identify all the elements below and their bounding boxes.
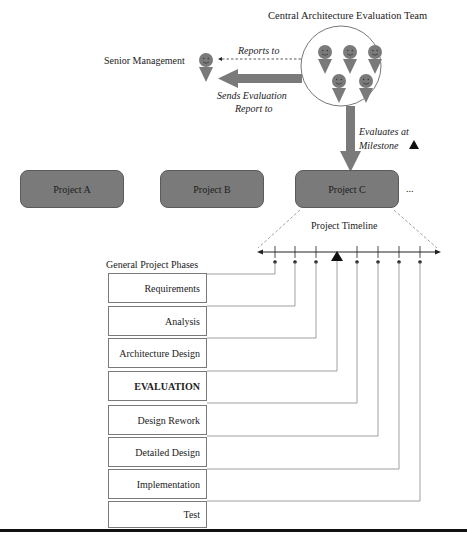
senior-management-icon [199, 53, 213, 82]
phase-implementation: Implementation [108, 469, 207, 499]
phases-heading: General Project Phases [106, 259, 198, 270]
project-b-box: Project B [160, 170, 264, 208]
phase-test: Test [108, 501, 207, 528]
bottom-rule [0, 529, 467, 532]
sends-report-label-2: Report to [235, 103, 273, 114]
more-projects-ellipsis: ... [406, 183, 414, 194]
project-c-box: Project C [295, 170, 399, 208]
phase-evaluation: EVALUATION [108, 371, 207, 401]
phase-requirements: Requirements [108, 273, 207, 303]
phase-architecture-design: Architecture Design [108, 338, 207, 368]
team-title: Central Architecture Evaluation Team [268, 10, 427, 21]
reports-to-label: Reports to [238, 45, 279, 56]
phase-design-rework: Design Rework [108, 405, 207, 435]
evaluates-label-2: Milestone [359, 140, 398, 151]
diagram-graphics [0, 0, 467, 543]
phase-detailed-design: Detailed Design [108, 437, 207, 467]
sends-report-label-1: Sends Evaluation [217, 90, 287, 101]
project-a-box: Project A [20, 170, 124, 208]
phase-analysis: Analysis [108, 306, 207, 336]
senior-management-label: Senior Management [104, 55, 185, 66]
timeline-title: Project Timeline [311, 220, 377, 231]
evaluates-label-1: Evaluates at [359, 126, 409, 137]
